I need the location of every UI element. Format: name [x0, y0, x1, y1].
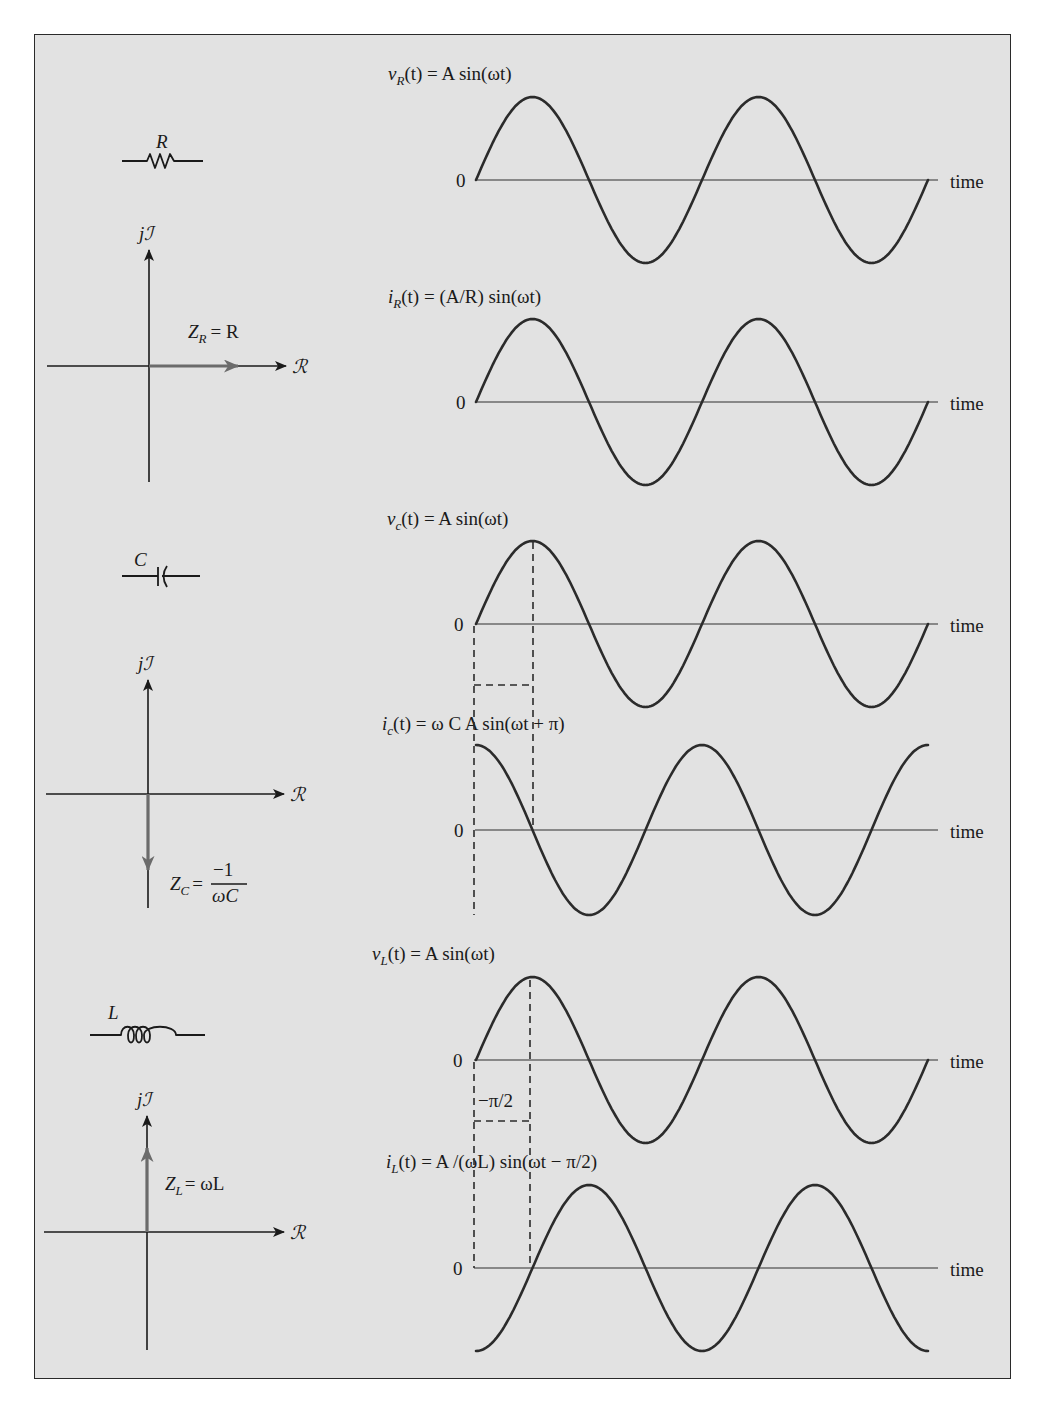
inductor-phase-markers: −π/2 — [474, 980, 530, 1268]
impedance-label: ZL= ωL — [165, 1173, 224, 1198]
iL-waveform-plot: iL(t) = A /(ωL) sin(ωt − π/2) 0 time — [386, 1151, 984, 1351]
capacitor-complex-plane: jℐ ℛ ZC= −1 ωC — [46, 653, 307, 908]
resistor-symbol-icon — [122, 154, 203, 168]
vc-equation: vc(t) = A sin(ωt) — [387, 508, 508, 533]
iR-waveform-plot: iR(t) = (A/R) sin(ωt) 0 time — [388, 286, 984, 485]
imag-axis-label: jℐ — [136, 223, 156, 244]
iR-time-label: time — [950, 393, 984, 414]
capacitor-section: C jℐ ℛ ZC= −1 ωC vc(t) = A sin(ωt) 0 tim… — [46, 508, 984, 915]
imag-axis-label: jℐ — [134, 1089, 154, 1110]
vR-time-label: time — [950, 171, 984, 192]
resistor-section: R jℐ ℛ ZR= R vR(t) = A sin(ωt) 0 time iR… — [47, 63, 984, 485]
impedance-label: ZC= — [170, 873, 203, 898]
inductor-section: L jℐ ℛ ZL= ωL vL(t) = A sin(ωt) 0 time i… — [44, 943, 984, 1351]
iL-time-label: time — [950, 1259, 984, 1280]
vc-zero-label: 0 — [454, 614, 464, 635]
vR-equation: vR(t) = A sin(ωt) — [388, 63, 512, 88]
vL-waveform-plot: vL(t) = A sin(ωt) 0 time — [372, 943, 984, 1143]
vc-time-label: time — [950, 615, 984, 636]
ic-waveform-plot: ic(t) = ω C A sin(ωt + π) 0 time — [382, 713, 984, 915]
inductor-symbol-icon — [90, 1027, 205, 1043]
real-axis-label: ℛ — [292, 356, 309, 377]
vL-equation: vL(t) = A sin(ωt) — [372, 943, 495, 968]
iL-zero-label: 0 — [453, 1258, 463, 1279]
phase-shift-label: −π/2 — [478, 1090, 513, 1111]
inductor-label: L — [107, 1002, 119, 1023]
iL-equation: iL(t) = A /(ωL) sin(ωt − π/2) — [386, 1151, 597, 1176]
ic-zero-label: 0 — [454, 820, 464, 841]
capacitor-label: C — [134, 549, 147, 570]
impedance-numerator: −1 — [213, 859, 233, 880]
resistor-complex-plane: jℐ ℛ ZR= R — [47, 223, 309, 482]
imag-axis-label: jℐ — [135, 653, 155, 674]
iR-equation: iR(t) = (A/R) sin(ωt) — [388, 286, 541, 311]
resistor-label: R — [155, 131, 168, 152]
vL-zero-label: 0 — [453, 1050, 463, 1071]
real-axis-label: ℛ — [290, 784, 307, 805]
inductor-complex-plane: jℐ ℛ ZL= ωL — [44, 1089, 307, 1350]
vR-waveform-plot: vR(t) = A sin(ωt) 0 time — [388, 63, 984, 263]
real-axis-label: ℛ — [290, 1222, 307, 1243]
vL-time-label: time — [950, 1051, 984, 1072]
impedance-denominator: ωC — [212, 885, 238, 906]
vR-zero-label: 0 — [456, 170, 466, 191]
iR-zero-label: 0 — [456, 392, 466, 413]
impedance-label: ZR= R — [188, 321, 239, 346]
ic-time-label: time — [950, 821, 984, 842]
impedance-waveform-figure: R jℐ ℛ ZR= R vR(t) = A sin(ωt) 0 time iR… — [0, 0, 1039, 1409]
vc-waveform-plot: vc(t) = A sin(ωt) 0 time — [387, 508, 984, 707]
